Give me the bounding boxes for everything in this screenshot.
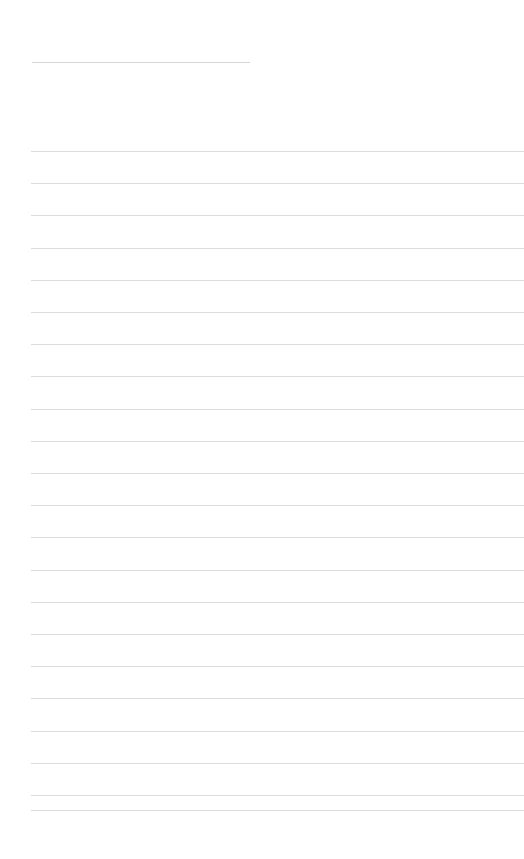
heading-underline-rule [32, 62, 250, 63]
ruled-line [31, 602, 524, 603]
ruled-line [31, 473, 524, 474]
ruled-line [31, 763, 524, 764]
ruled-line [31, 505, 524, 506]
document-page [0, 0, 524, 859]
ruled-line [31, 537, 524, 538]
ruled-line [31, 215, 524, 216]
ruled-line [31, 409, 524, 410]
ruled-line [31, 731, 524, 732]
ruled-line [31, 795, 524, 796]
ruled-line [31, 248, 524, 249]
ruled-line [31, 344, 524, 345]
ruled-line [31, 698, 524, 699]
ruled-line [31, 441, 524, 442]
ruled-line [31, 634, 524, 635]
ruled-line [31, 312, 524, 313]
ruled-line [31, 666, 524, 667]
ruled-line [31, 183, 524, 184]
ruled-line [31, 151, 524, 152]
ruled-line [31, 280, 524, 281]
ruled-line [31, 376, 524, 377]
ruled-line [31, 810, 524, 811]
ruled-line [31, 570, 524, 571]
